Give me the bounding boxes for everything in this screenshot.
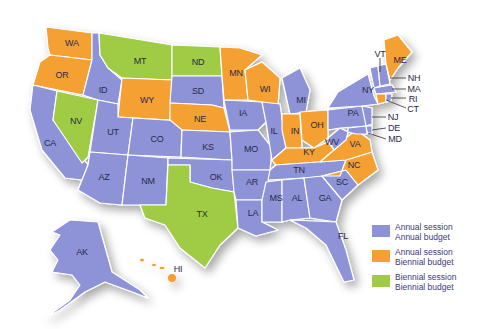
label-ky: KY — [303, 147, 315, 157]
legend-item-annual-annual: Annual sessionAnnual budget — [372, 222, 456, 242]
legend-swatch-annual-annual — [372, 225, 390, 237]
label-al: AL — [292, 193, 303, 203]
label-pa: PA — [348, 108, 359, 118]
label-ak: AK — [76, 247, 88, 257]
label-co: CO — [150, 134, 163, 144]
legend-item-biennial-biennial: Biennial sessionBiennial budget — [372, 272, 456, 292]
label-ia: IA — [239, 108, 247, 118]
label-ne: NE — [194, 114, 206, 124]
state-ak — [45, 220, 148, 318]
label-nv: NV — [70, 116, 82, 126]
label-nm: NM — [141, 176, 155, 186]
legend-line2: Biennial budget — [395, 282, 456, 292]
legend-line2: Biennial budget — [395, 257, 454, 267]
legend-item-annual-biennial: Annual sessionBiennial budget — [372, 247, 456, 267]
legend-line2: Annual budget — [395, 232, 453, 242]
label-nj: NJ — [388, 112, 399, 122]
label-ca: CA — [44, 138, 56, 148]
label-wi: WI — [260, 84, 271, 94]
legend-swatch-annual-biennial — [372, 250, 390, 262]
label-ks: KS — [202, 142, 214, 152]
label-va: VA — [350, 139, 361, 149]
label-nh: NH — [408, 73, 421, 83]
label-me: ME — [393, 55, 406, 65]
legend-line1: Biennial session — [395, 272, 456, 282]
label-id: ID — [99, 85, 108, 95]
label-mn: MN — [229, 68, 243, 78]
label-ma: MA — [407, 84, 420, 94]
label-ct: CT — [407, 104, 419, 114]
label-fl: FL — [338, 231, 348, 241]
label-wy: WY — [140, 95, 154, 105]
label-in: IN — [291, 126, 300, 136]
label-az: AZ — [98, 172, 109, 182]
state-mi — [282, 68, 310, 114]
label-sc: SC — [336, 177, 348, 187]
state-ct — [376, 94, 386, 104]
label-tn: TN — [293, 165, 305, 175]
label-nd: ND — [192, 57, 205, 67]
label-nc: NC — [348, 160, 361, 170]
state-hi — [140, 259, 176, 283]
label-vt: VT — [374, 49, 385, 59]
label-mo: MO — [244, 144, 258, 154]
label-ok: OK — [210, 172, 223, 182]
label-oh: OH — [310, 120, 323, 130]
legend-line1: Annual session — [395, 247, 454, 257]
label-de: DE — [388, 123, 400, 133]
label-la: LA — [248, 208, 259, 218]
legend-swatch-biennial-biennial — [372, 275, 390, 287]
state-md — [348, 126, 367, 134]
label-ut: UT — [107, 127, 119, 137]
label-ar: AR — [246, 177, 258, 187]
label-sd: SD — [192, 86, 204, 96]
label-tx: TX — [196, 209, 207, 219]
label-ms: MS — [269, 193, 282, 203]
state-fl — [290, 220, 354, 282]
label-md: MD — [388, 134, 402, 144]
label-or: OR — [55, 70, 68, 80]
label-il: IL — [270, 126, 277, 136]
legend-line1: Annual session — [395, 222, 453, 232]
legend: Annual sessionAnnual budget Annual sessi… — [372, 222, 456, 297]
label-wv: WV — [325, 137, 339, 147]
label-mt: MT — [134, 56, 147, 66]
label-ny: NY — [362, 85, 374, 95]
label-ga: GA — [319, 193, 332, 203]
label-wa: WA — [65, 38, 79, 48]
label-mi: MI — [296, 95, 306, 105]
label-hi: HI — [174, 264, 183, 274]
label-ri: RI — [409, 94, 418, 104]
